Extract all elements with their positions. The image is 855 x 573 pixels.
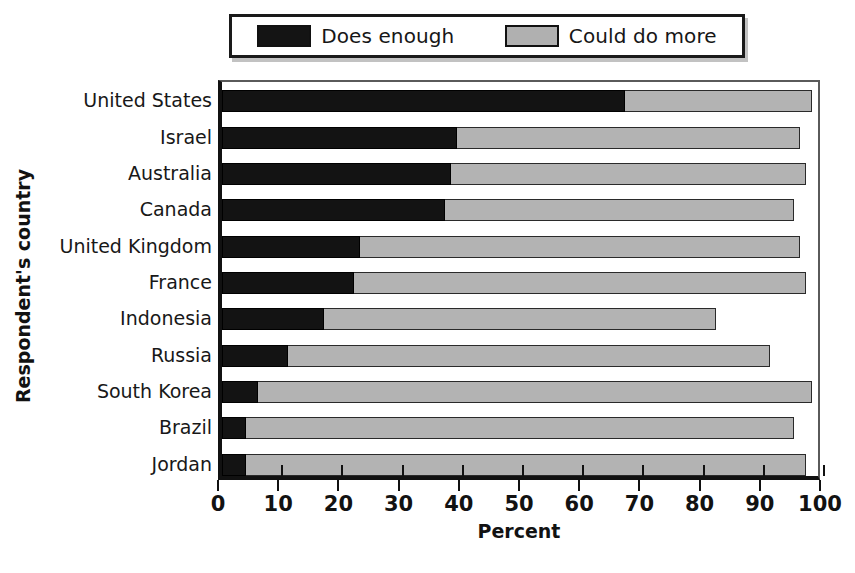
bar-segment-could-do-more (354, 272, 806, 294)
bar-segment-does-enough (222, 199, 445, 221)
legend-swatch-does-enough-icon (257, 25, 311, 47)
x-axis-inner-tick (823, 465, 825, 476)
bar-row (222, 345, 770, 367)
bar-segment-does-enough (222, 272, 354, 294)
x-axis-inner-tick (522, 465, 524, 476)
y-axis-tick-labels: United StatesIsraelAustraliaCanadaUnited… (8, 80, 212, 480)
y-axis-label-united-kingdom: United Kingdom (12, 235, 212, 257)
x-axis-tick-label-90: 90 (745, 492, 774, 516)
x-axis-tick-mark (337, 480, 339, 491)
x-axis-inner-tick (763, 465, 765, 476)
x-axis-tick-mark (759, 480, 761, 491)
x-axis-tick-label-0: 0 (211, 492, 226, 516)
bar-row (222, 163, 806, 185)
plot-area (218, 80, 820, 480)
x-axis-tick-label-30: 30 (384, 492, 413, 516)
x-axis-tick-mark (819, 480, 821, 491)
bar-row (222, 90, 812, 112)
x-axis-inner-tick (402, 465, 404, 476)
bars-container (222, 82, 818, 476)
legend-label-could-do-more: Could do more (569, 24, 717, 48)
bar-row (222, 236, 800, 258)
x-axis-tick-label-10: 10 (264, 492, 293, 516)
y-axis-label-indonesia: Indonesia (12, 307, 212, 329)
bar-segment-could-do-more (246, 417, 794, 439)
x-axis-tick-mark (518, 480, 520, 491)
x-axis-tick-label-40: 40 (444, 492, 473, 516)
x-axis-tick-label-50: 50 (504, 492, 533, 516)
bar-segment-could-do-more (457, 127, 800, 149)
x-axis-inner-tick (281, 465, 283, 476)
x-axis-tick-label-80: 80 (685, 492, 714, 516)
x-axis-inner-tick (341, 465, 343, 476)
x-axis-tick-mark (458, 480, 460, 491)
bar-segment-does-enough (222, 163, 451, 185)
bar-row (222, 454, 806, 476)
x-axis-tick-label-100: 100 (798, 492, 842, 516)
x-axis-title: Percent (218, 520, 820, 542)
bar-row (222, 127, 800, 149)
x-axis-tick-label-60: 60 (565, 492, 594, 516)
x-axis-tick-mark (398, 480, 400, 491)
bar-segment-does-enough (222, 417, 246, 439)
bar-segment-does-enough (222, 381, 258, 403)
y-axis-label-israel: Israel (12, 126, 212, 148)
bar-row (222, 272, 806, 294)
bar-row (222, 417, 794, 439)
bar-segment-does-enough (222, 308, 324, 330)
bar-segment-does-enough (222, 345, 288, 367)
legend-entry-does-enough: Does enough (257, 24, 454, 48)
bar-segment-could-do-more (625, 90, 812, 112)
chart-legend: Does enough Could do more (229, 14, 745, 58)
stacked-bar-chart: Does enough Could do more United StatesI… (0, 0, 855, 573)
legend-entry-could-do-more: Could do more (505, 24, 717, 48)
x-axis-tick-label-70: 70 (625, 492, 654, 516)
bar-segment-could-do-more (360, 236, 799, 258)
bar-segment-could-do-more (451, 163, 806, 185)
y-axis-label-canada: Canada (12, 198, 212, 220)
bar-segment-could-do-more (324, 308, 715, 330)
bar-row (222, 381, 812, 403)
bar-row (222, 199, 794, 221)
bar-segment-does-enough (222, 454, 246, 476)
bar-segment-could-do-more (246, 454, 806, 476)
y-axis-label-russia: Russia (12, 344, 212, 366)
legend-swatch-could-do-more-icon (505, 25, 559, 47)
x-axis-tick-mark (217, 480, 219, 491)
bar-segment-does-enough (222, 236, 360, 258)
y-axis-label-south-korea: South Korea (12, 380, 212, 402)
bar-row (222, 308, 716, 330)
x-axis-inner-tick (582, 465, 584, 476)
legend-label-does-enough: Does enough (321, 24, 454, 48)
y-axis-title: Respondent's country (12, 116, 34, 456)
x-axis-inner-tick (462, 465, 464, 476)
bar-segment-could-do-more (258, 381, 812, 403)
y-axis-label-australia: Australia (12, 162, 212, 184)
y-axis-label-france: France (12, 271, 212, 293)
x-axis-tick-mark (699, 480, 701, 491)
x-axis-tick-mark (277, 480, 279, 491)
bar-segment-could-do-more (445, 199, 794, 221)
x-axis-inner-tick (642, 465, 644, 476)
bar-segment-does-enough (222, 127, 457, 149)
x-axis-inner-tick (703, 465, 705, 476)
bar-segment-could-do-more (288, 345, 770, 367)
bar-segment-does-enough (222, 90, 625, 112)
x-axis-tick-mark (578, 480, 580, 491)
y-axis-label-united-states: United States (12, 89, 212, 111)
y-axis-label-jordan: Jordan (12, 453, 212, 475)
y-axis-label-brazil: Brazil (12, 416, 212, 438)
x-axis-tick-mark (638, 480, 640, 491)
x-axis-tick-label-20: 20 (324, 492, 353, 516)
